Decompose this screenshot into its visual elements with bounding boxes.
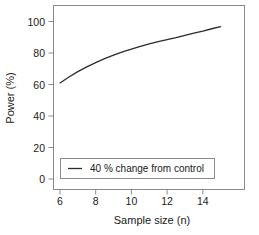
x-tick-label-10: 10 xyxy=(126,195,138,207)
chart-canvas: 100 80 60 40 20 0 6 8 10 12 14 Sample si… xyxy=(0,0,259,235)
power-curve-figure: 100 80 60 40 20 0 6 8 10 12 14 Sample si… xyxy=(0,0,259,235)
y-tick-label-80: 80 xyxy=(33,47,45,59)
x-axis-tick-labels: 6 8 10 12 14 xyxy=(57,195,209,207)
x-tick-label-12: 12 xyxy=(161,195,173,207)
y-tick-label-60: 60 xyxy=(33,79,45,91)
x-tick-label-14: 14 xyxy=(197,195,209,207)
y-tick-label-20: 20 xyxy=(33,142,45,154)
legend-label-0: 40 % change from control xyxy=(90,163,204,174)
x-axis-ticks xyxy=(60,190,203,195)
series-line-40-percent-change xyxy=(60,27,221,83)
y-tick-label-40: 40 xyxy=(33,110,45,122)
y-tick-label-100: 100 xyxy=(27,16,45,28)
y-tick-label-0: 0 xyxy=(39,173,45,185)
y-axis-ticks xyxy=(49,22,54,180)
x-tick-label-6: 6 xyxy=(57,195,63,207)
y-axis-title: Power (%) xyxy=(4,72,16,123)
x-tick-label-8: 8 xyxy=(93,195,99,207)
x-axis-title: Sample size (n) xyxy=(114,214,190,226)
chart-legend: 40 % change from control xyxy=(61,159,215,179)
y-axis-tick-labels: 100 80 60 40 20 0 xyxy=(27,16,45,186)
